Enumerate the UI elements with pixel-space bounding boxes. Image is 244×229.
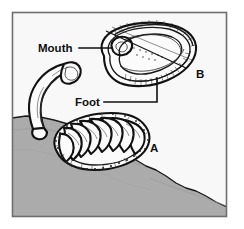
mouth-label: Mouth bbox=[38, 42, 72, 54]
marker-label-b: B bbox=[196, 68, 204, 80]
figure-root: Mouth Foot A B bbox=[0, 0, 244, 229]
marker-label-a: A bbox=[150, 142, 158, 154]
chiton-illustration: Mouth Foot A B bbox=[0, 0, 244, 229]
figure-panel: Mouth Foot A B bbox=[12, 12, 227, 217]
foot-label: Foot bbox=[75, 96, 100, 108]
